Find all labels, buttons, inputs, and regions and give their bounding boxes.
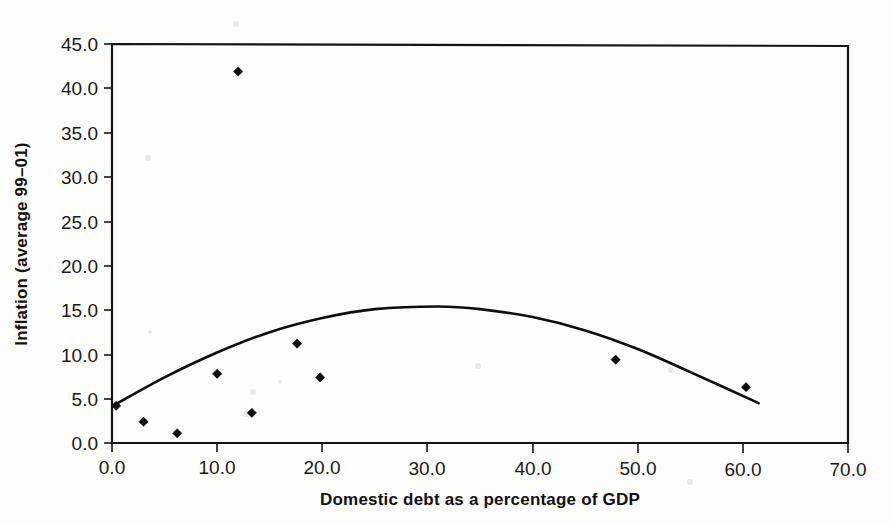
- data-point-marker: [139, 417, 148, 426]
- x-tick-label: 30.0: [409, 458, 446, 479]
- plot-frame: [112, 44, 848, 443]
- y-axis-title: Inflation (average 99–01): [12, 142, 31, 345]
- x-tick-label: 20.0: [304, 457, 341, 478]
- x-axis-tick-labels: 0.0 10.0 20.0 30.0 40.0 50.0 60.0 70.0: [99, 457, 867, 480]
- chart-figure: 45.0 40.0 35.0 30.0 25.0 20.0 15.0 10.0 …: [0, 0, 893, 525]
- scatter-plot-canvas: 45.0 40.0 35.0 30.0 25.0 20.0 15.0 10.0 …: [0, 0, 893, 525]
- data-point-marker: [213, 369, 222, 378]
- scatter-markers: [112, 67, 751, 438]
- y-axis-ticks: [104, 44, 112, 443]
- data-point-marker: [234, 67, 243, 76]
- data-point-marker: [611, 355, 620, 364]
- fitted-trend-curve: [113, 306, 759, 405]
- x-axis-ticks: [112, 443, 848, 453]
- y-tick-label: 0.0: [72, 433, 98, 454]
- x-tick-label: 70.0: [830, 459, 867, 480]
- scan-artifacts: [145, 21, 693, 485]
- data-point-marker: [316, 373, 325, 382]
- data-point-marker: [247, 408, 256, 417]
- x-tick-label: 10.0: [199, 457, 236, 478]
- y-axis-tick-labels: 45.0 40.0 35.0 30.0 25.0 20.0 15.0 10.0 …: [61, 34, 98, 454]
- y-tick-label: 40.0: [61, 78, 98, 99]
- x-tick-label: 60.0: [725, 459, 762, 480]
- x-tick-label: 0.0: [99, 457, 125, 478]
- y-tick-label: 15.0: [61, 300, 98, 321]
- x-axis-title: Domestic debt as a percentage of GDP: [320, 490, 640, 509]
- y-tick-label: 45.0: [61, 34, 98, 55]
- x-tick-label: 50.0: [620, 458, 657, 479]
- data-point-marker: [292, 339, 301, 348]
- y-tick-label: 5.0: [72, 389, 98, 410]
- y-tick-label: 30.0: [61, 167, 98, 188]
- y-tick-label: 20.0: [61, 256, 98, 277]
- y-tick-label: 35.0: [61, 123, 98, 144]
- y-tick-label: 25.0: [61, 212, 98, 233]
- data-point-marker: [741, 383, 750, 392]
- y-tick-label: 10.0: [61, 345, 98, 366]
- data-point-marker: [173, 429, 182, 438]
- x-tick-label: 40.0: [515, 458, 552, 479]
